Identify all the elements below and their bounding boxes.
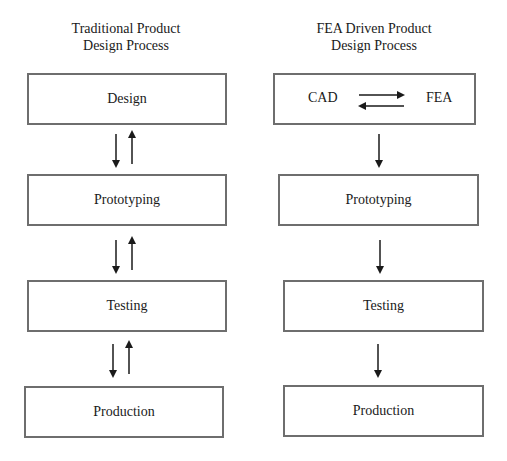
connector-arrows (0, 0, 507, 461)
